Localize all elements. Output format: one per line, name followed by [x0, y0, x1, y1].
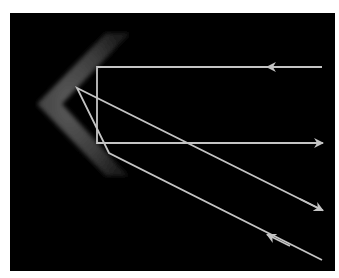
corner-mirror-shape: [37, 33, 130, 176]
mirror-chevron: [37, 33, 130, 176]
ray-2-incoming-arrow-icon: [267, 235, 290, 247]
ray-1: [97, 67, 323, 143]
diagram-canvas: [0, 0, 339, 278]
ray-2-outgoing-arrow-icon: [300, 199, 323, 211]
ray-1-path: [97, 67, 322, 143]
diagram-svg: [0, 0, 339, 278]
